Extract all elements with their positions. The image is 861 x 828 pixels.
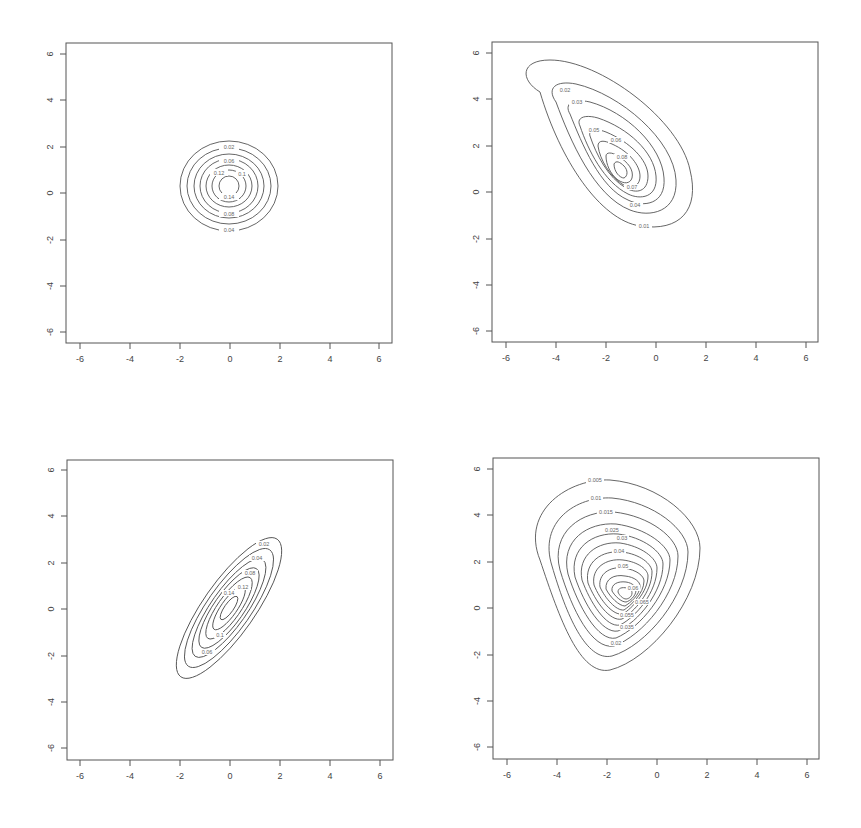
panel-top-left: -6 -4 -2 0 2 4 6 -6 -4 -2 0 2 4 6 xyxy=(45,43,392,364)
contour-label: 0.065 xyxy=(635,599,649,605)
plot-frame xyxy=(67,460,393,760)
y-tick-label: 6 xyxy=(46,467,56,472)
y-tick-label: -6 xyxy=(472,743,482,751)
contour-label: 0.06 xyxy=(224,158,235,164)
y-tick-label: -2 xyxy=(472,651,482,659)
y-axis: -6 -4 -2 0 2 4 6 xyxy=(46,467,67,752)
contour-label: 0.14 xyxy=(224,590,235,596)
contour-label: 0.02 xyxy=(224,144,235,150)
contour-label: 0.04 xyxy=(630,202,641,208)
contour-label: 0.08 xyxy=(224,211,235,217)
x-tick-label: 4 xyxy=(754,770,759,780)
contours: 0.02 0.06 0.1 0.12 0.14 0.08 0.04 xyxy=(180,141,278,233)
contours: 0.005 0.01 0.015 0.025 0.03 0.04 0.05 0.… xyxy=(535,477,700,670)
contour-label: 0.05 xyxy=(618,563,629,569)
contour-label: 0.06 xyxy=(628,585,639,591)
x-axis: -6 -4 -2 0 2 4 6 xyxy=(76,343,382,364)
x-tick-label: 6 xyxy=(376,354,381,364)
y-tick-label: -2 xyxy=(45,236,55,244)
y-tick-label: 4 xyxy=(46,513,56,518)
contour-label: 0.04 xyxy=(224,227,235,233)
y-tick-label: -6 xyxy=(45,328,55,336)
x-tick-label: 4 xyxy=(327,354,332,364)
x-tick-label: -6 xyxy=(503,770,511,780)
contour-label: 0.03 xyxy=(617,535,628,541)
y-tick-label: 6 xyxy=(471,50,481,55)
x-tick-label: -6 xyxy=(76,354,84,364)
panel-top-right: -6 -4 -2 0 2 4 6 -6 -4 -2 0 2 4 6 xyxy=(471,42,818,363)
x-tick-label: -2 xyxy=(603,770,611,780)
contour-label: 0.06 xyxy=(611,137,622,143)
contour-label: 0.12 xyxy=(214,170,225,176)
contour-label: 0.1 xyxy=(216,632,224,638)
y-tick-label: 2 xyxy=(46,560,56,565)
y-tick-label: 6 xyxy=(45,51,55,56)
y-tick-label: -4 xyxy=(46,698,56,706)
y-tick-label: -4 xyxy=(45,282,55,290)
y-axis: -6 -4 -2 0 2 4 6 xyxy=(45,51,66,336)
contour-label: 0.005 xyxy=(588,477,602,483)
x-tick-label: 0 xyxy=(227,771,232,781)
contour-label: 0.04 xyxy=(252,555,263,561)
y-tick-label: -6 xyxy=(471,327,481,335)
contour-label: 0.025 xyxy=(605,527,619,533)
y-tick-label: -4 xyxy=(472,697,482,705)
y-tick-label: -6 xyxy=(46,744,56,752)
panel-bottom-right: -6 -4 -2 0 2 4 6 -6 -4 -2 0 2 4 6 xyxy=(472,458,819,780)
x-tick-label: -4 xyxy=(553,770,561,780)
contour-label: 0.06 xyxy=(202,649,213,655)
contour-label: 0.03 xyxy=(572,99,583,105)
contour-label: 0.02 xyxy=(560,87,571,93)
x-tick-label: 4 xyxy=(753,353,758,363)
contour-label: 0.08 xyxy=(245,570,256,576)
x-axis: -6 -4 -2 0 2 4 6 xyxy=(503,759,810,780)
y-axis: -6 -4 -2 0 2 4 6 xyxy=(471,50,492,335)
y-tick-label: 6 xyxy=(472,466,482,471)
contour-label: 0.01 xyxy=(639,223,650,229)
y-tick-label: 4 xyxy=(472,512,482,517)
x-tick-label: -6 xyxy=(502,353,510,363)
contour-label: 0.035 xyxy=(620,624,634,630)
x-tick-label: -2 xyxy=(602,353,610,363)
x-tick-label: -2 xyxy=(176,771,184,781)
plot-frame xyxy=(492,42,818,342)
plot-frame xyxy=(493,458,819,759)
contour-label: 0.12 xyxy=(238,584,249,590)
contour-label: 0.015 xyxy=(599,509,613,515)
x-tick-label: -2 xyxy=(176,354,184,364)
contour-label: 0.055 xyxy=(620,612,634,618)
x-tick-label: 6 xyxy=(804,770,809,780)
x-tick-label: -4 xyxy=(126,354,134,364)
y-tick-label: -4 xyxy=(471,281,481,289)
x-tick-label: 4 xyxy=(327,771,332,781)
contour-label: 0.1 xyxy=(238,171,246,177)
x-axis: -6 -4 -2 0 2 4 6 xyxy=(502,342,809,363)
y-tick-label: -2 xyxy=(471,235,481,243)
x-tick-label: 0 xyxy=(654,770,659,780)
contour-label: 0.14 xyxy=(224,194,235,200)
x-tick-label: -4 xyxy=(126,771,134,781)
contour-label: 0.05 xyxy=(589,127,600,133)
x-tick-label: 2 xyxy=(277,771,282,781)
contour-label: 0.02 xyxy=(611,640,622,646)
y-tick-label: 0 xyxy=(471,189,481,194)
contour-label: 0.02 xyxy=(259,541,270,547)
contour-label: 0.01 xyxy=(591,495,602,501)
y-tick-label: 4 xyxy=(45,97,55,102)
y-tick-label: -2 xyxy=(46,652,56,660)
x-tick-label: 2 xyxy=(704,770,709,780)
y-tick-label: 4 xyxy=(471,96,481,101)
x-tick-label: -6 xyxy=(76,771,84,781)
contour-label: 0.07 xyxy=(627,184,638,190)
contours: 0.02 0.03 0.05 0.06 0.08 0.07 0.04 0.01 xyxy=(526,60,692,229)
y-tick-label: 2 xyxy=(471,143,481,148)
y-tick-label: 2 xyxy=(45,144,55,149)
x-tick-label: 2 xyxy=(703,353,708,363)
y-tick-label: 2 xyxy=(472,559,482,564)
x-axis: -6 -4 -2 0 2 4 6 xyxy=(76,760,383,781)
x-tick-label: 0 xyxy=(227,354,232,364)
y-axis: -6 -4 -2 0 2 4 6 xyxy=(472,466,493,751)
y-tick-label: 0 xyxy=(472,605,482,610)
figure: -6 -4 -2 0 2 4 6 -6 -4 -2 0 2 4 6 xyxy=(0,0,861,828)
x-tick-label: 2 xyxy=(277,354,282,364)
